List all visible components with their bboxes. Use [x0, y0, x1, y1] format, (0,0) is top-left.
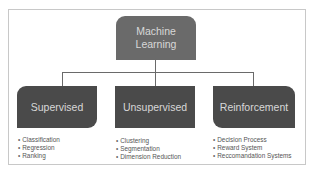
- root-node-label: Machine Learning: [136, 25, 177, 51]
- bullet-icon: •: [116, 137, 118, 144]
- list-item: •Clustering: [116, 137, 181, 145]
- list-item: •Reward System: [213, 144, 292, 152]
- bullet-icon: •: [18, 136, 20, 143]
- connector-right: [253, 72, 254, 86]
- connector-root: [155, 60, 156, 86]
- list-item: •Reccomandation Systems: [213, 152, 292, 160]
- list-item: •Segmentation: [116, 145, 181, 153]
- branch-label-reinforcement: Reinforcement: [220, 101, 288, 113]
- unsupervised-list: •Clustering •Segmentation •Dimension Red…: [116, 137, 181, 161]
- bullet-icon: •: [213, 144, 215, 151]
- reinforcement-list: •Decision Process •Reward System •Reccom…: [213, 136, 292, 160]
- branch-label-unsupervised: Unsupervised: [123, 101, 187, 113]
- bullet-icon: •: [116, 153, 118, 160]
- branch-node-reinforcement: Reinforcement: [213, 86, 295, 128]
- branch-label-supervised: Supervised: [31, 101, 84, 113]
- bullet-icon: •: [116, 145, 118, 152]
- list-item: •Decision Process: [213, 136, 292, 144]
- list-item: •Ranking: [18, 152, 60, 160]
- supervised-list: •Classification •Regression •Ranking: [18, 136, 60, 160]
- branch-node-supervised: Supervised: [17, 86, 97, 128]
- root-node-machine-learning: Machine Learning: [116, 16, 196, 60]
- list-item: •Dimension Reduction: [116, 153, 181, 161]
- connector-horizontal: [62, 72, 254, 73]
- bullet-icon: •: [18, 152, 20, 159]
- branch-node-unsupervised: Unsupervised: [115, 86, 195, 128]
- connector-left: [62, 72, 63, 86]
- bullet-icon: •: [213, 136, 215, 143]
- bullet-icon: •: [18, 144, 20, 151]
- bullet-icon: •: [213, 152, 215, 159]
- list-item: •Regression: [18, 144, 60, 152]
- list-item: •Classification: [18, 136, 60, 144]
